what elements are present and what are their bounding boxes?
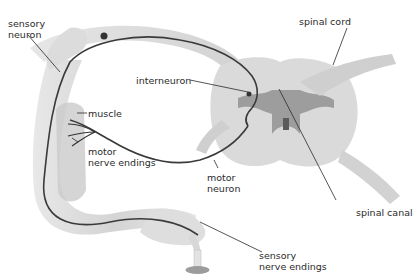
label-line: nerve endings — [259, 261, 327, 272]
label-motor-nerve-endings: motor nerve endings — [88, 146, 156, 168]
label-line: neuron — [8, 29, 45, 40]
label-interneuron: interneuron — [136, 75, 191, 86]
label-line: motor — [88, 146, 156, 157]
diagram-illustration — [0, 0, 417, 280]
label-line: motor — [207, 172, 240, 183]
label-muscle: muscle — [88, 108, 122, 119]
sensory-cell-body-icon — [101, 33, 108, 40]
label-spinal-cord: spinal cord — [299, 16, 351, 27]
label-line: sensory — [259, 250, 327, 261]
label-sensory-neuron: sensory neuron — [8, 18, 45, 40]
label-spinal-canal: spinal canal — [356, 207, 413, 218]
label-line: nerve endings — [88, 157, 156, 168]
label-motor-neuron: motor neuron — [207, 172, 240, 194]
reflex-arc-diagram: sensory neuron spinal cord interneuron m… — [0, 0, 417, 280]
label-sensory-nerve-endings: sensory nerve endings — [259, 250, 327, 272]
label-line: sensory — [8, 18, 45, 29]
label-line: neuron — [207, 183, 240, 194]
